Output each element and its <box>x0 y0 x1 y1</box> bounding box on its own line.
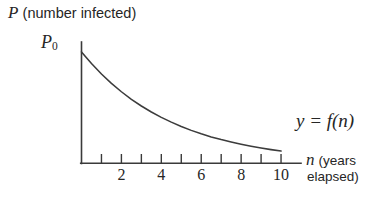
decay-curve <box>82 52 282 151</box>
exponential-decay-figure: P (number infected) P0 y = f(n) n (years… <box>0 0 386 199</box>
x-axis-tick-label: 6 <box>197 166 205 184</box>
x-axis-tick-label: 4 <box>157 166 165 184</box>
x-axis-description-line2: elapsed) <box>307 169 359 184</box>
x-axis-tick-label: 10 <box>273 166 289 184</box>
x-axis-tick-marks <box>101 155 281 163</box>
x-axis-title: n (years elapsed) <box>306 150 359 184</box>
curve-function-label: y = f(n) <box>296 110 354 132</box>
x-axis-tick-label: 2 <box>117 166 125 184</box>
x-axis-description-line1: (years <box>315 153 356 168</box>
x-axis-variable: n <box>306 150 315 169</box>
x-axis-tick-label: 8 <box>237 166 245 184</box>
